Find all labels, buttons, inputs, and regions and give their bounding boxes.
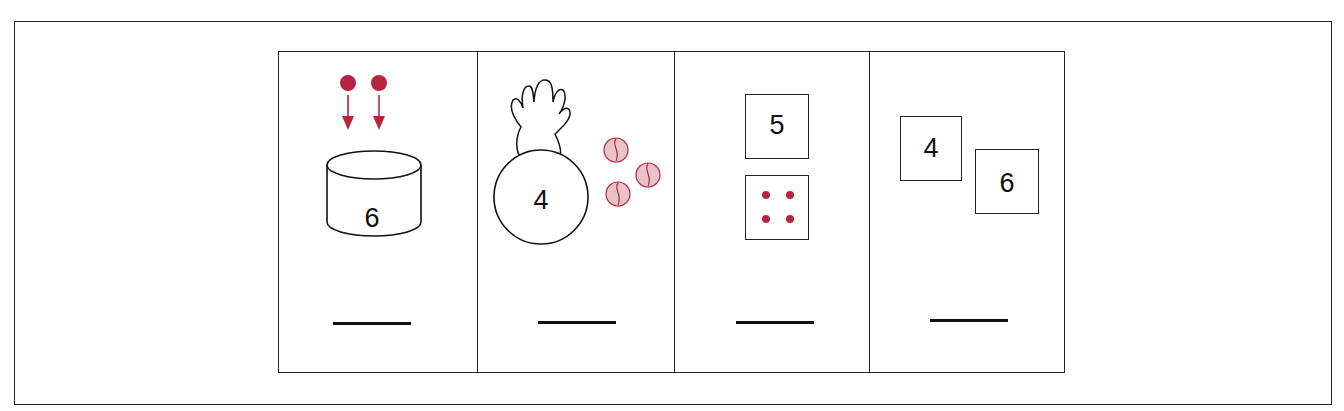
number-card-value: 5	[746, 110, 808, 141]
dot-card	[745, 175, 809, 240]
answer-blank-1[interactable]	[333, 322, 411, 325]
red-dot-arrows-icon	[339, 74, 419, 134]
exercise-panel-3: 5	[675, 52, 870, 372]
cylinder-number: 6	[357, 203, 387, 234]
exercise-strip: 6 4 5 4 6	[278, 51, 1065, 373]
number-card-a: 4	[900, 116, 962, 181]
four-dots-icon	[746, 176, 810, 241]
marble-icons	[603, 137, 673, 217]
number-card-a-value: 4	[901, 133, 961, 164]
number-card: 5	[745, 94, 809, 159]
exercise-panel-4: 4 6	[870, 52, 1063, 372]
answer-blank-2[interactable]	[538, 321, 616, 324]
answer-blank-4[interactable]	[930, 319, 1008, 322]
exercise-panel-2: 4	[478, 52, 675, 372]
bag-number: 4	[526, 185, 556, 216]
exercise-panel-1: 6	[279, 52, 478, 372]
number-card-b: 6	[975, 149, 1039, 214]
answer-blank-3[interactable]	[736, 321, 814, 324]
number-card-b-value: 6	[976, 168, 1038, 199]
